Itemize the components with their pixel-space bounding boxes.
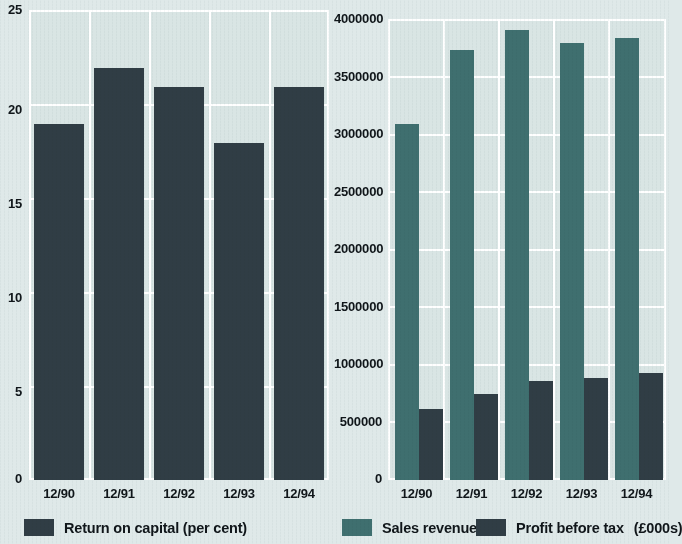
left-gridline	[29, 10, 329, 12]
bar-sales-revenue	[615, 38, 639, 480]
left-xtick-label: 12/91	[89, 487, 149, 500]
left-xtick-label: 12/93	[209, 487, 269, 500]
right-ytick-label: 1500000	[334, 300, 382, 313]
bar-profit-before-tax	[419, 409, 443, 480]
right-gridline	[388, 19, 666, 21]
legend-label-return-on-capital: Return on capital (per cent)	[64, 520, 247, 536]
right-vgridline	[443, 19, 445, 480]
left-ytick-label: 25	[0, 3, 22, 16]
bar-profit-before-tax	[529, 381, 553, 481]
bar-return-on-capital	[34, 124, 84, 480]
right-ytick-label: 1000000	[334, 357, 382, 370]
right-ytick-label: 4000000	[334, 12, 382, 25]
bar-profit-before-tax	[639, 373, 663, 480]
left-ytick-label: 10	[0, 291, 22, 304]
legend-swatch-sales-revenue	[342, 519, 372, 536]
bar-return-on-capital	[94, 68, 144, 480]
left-chart-panel: 25 20 15 10 5 0 12/90 12/91 12/92 12/93 …	[0, 0, 336, 544]
right-xtick-label: 12/94	[609, 487, 664, 500]
right-vgridline	[608, 19, 610, 480]
right-ytick-label: 3000000	[334, 127, 382, 140]
bar-return-on-capital	[154, 87, 204, 480]
right-ytick-label: 2500000	[334, 185, 382, 198]
left-vgridline	[149, 10, 151, 480]
legend-profit-before-tax: Profit before tax (£000s)	[476, 519, 682, 536]
right-ytick-label: 500000	[334, 415, 382, 428]
legend-label-sales-revenue: Sales revenue	[382, 520, 477, 536]
legend-units-label: (£000s)	[634, 520, 682, 536]
right-ytick-label: 2000000	[334, 242, 382, 255]
bar-profit-before-tax	[474, 394, 498, 480]
legend-swatch-profit-before-tax	[476, 519, 506, 536]
left-ytick-label: 0	[0, 472, 22, 485]
right-vgridline	[388, 19, 390, 480]
right-vgridline	[553, 19, 555, 480]
right-vgridline	[664, 19, 666, 480]
right-ytick-label: 0	[334, 472, 382, 485]
right-xtick-label: 12/90	[389, 487, 444, 500]
left-vgridline	[327, 10, 329, 480]
right-xtick-label: 12/93	[554, 487, 609, 500]
left-xtick-label: 12/90	[29, 487, 89, 500]
legend-return-on-capital: Return on capital (per cent)	[24, 519, 247, 536]
right-ytick-label: 3500000	[334, 70, 382, 83]
right-vgridline	[498, 19, 500, 480]
left-xtick-label: 12/92	[149, 487, 209, 500]
legend-label-profit-before-tax: Profit before tax	[516, 520, 624, 536]
legend-swatch-return-on-capital	[24, 519, 54, 536]
bar-sales-revenue	[560, 43, 584, 480]
left-ytick-label: 20	[0, 103, 22, 116]
bar-sales-revenue	[450, 50, 474, 480]
left-vgridline	[269, 10, 271, 480]
left-xtick-label: 12/94	[269, 487, 329, 500]
left-vgridline	[89, 10, 91, 480]
bar-return-on-capital	[214, 143, 264, 480]
bar-sales-revenue	[395, 124, 419, 481]
right-xtick-label: 12/92	[499, 487, 554, 500]
bar-return-on-capital	[274, 87, 324, 480]
left-vgridline	[209, 10, 211, 480]
bar-sales-revenue	[505, 30, 529, 480]
left-ytick-label: 5	[0, 385, 22, 398]
right-xtick-label: 12/91	[444, 487, 499, 500]
right-chart-panel: 4000000 3500000 3000000 2500000 2000000 …	[336, 0, 672, 544]
legend-sales-revenue: Sales revenue	[342, 519, 477, 536]
left-vgridline	[29, 10, 31, 480]
left-ytick-label: 15	[0, 197, 22, 210]
bar-profit-before-tax	[584, 378, 608, 480]
